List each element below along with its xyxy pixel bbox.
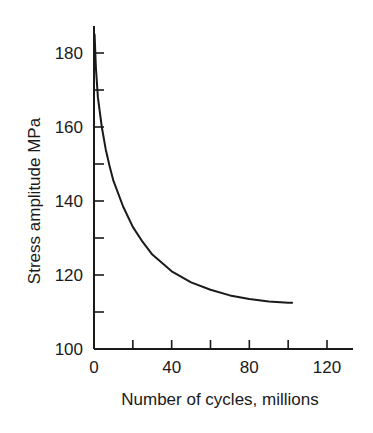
x-tick-label: 120 <box>313 358 341 377</box>
x-axis: 04080120 <box>89 340 353 377</box>
sn-curve-line <box>95 35 293 303</box>
x-tick-label: 0 <box>89 358 98 377</box>
y-tick-label: 140 <box>55 192 83 211</box>
y-tick-label: 180 <box>55 44 83 63</box>
sn-curve-chart: 100120140160180 04080120 Stress amplitud… <box>0 0 373 433</box>
y-tick-label: 160 <box>55 118 83 137</box>
data-series <box>95 35 293 303</box>
x-tick-label: 40 <box>162 358 181 377</box>
y-tick-label: 120 <box>55 266 83 285</box>
x-axis-title: Number of cycles, millions <box>121 390 318 409</box>
y-tick-label: 100 <box>55 340 83 359</box>
x-tick-label: 80 <box>240 358 259 377</box>
y-axis-title: Stress amplitude MPa <box>25 117 44 284</box>
